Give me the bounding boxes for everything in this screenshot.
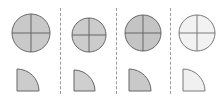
sector-body-1	[17, 69, 39, 91]
quarter-sector-4	[181, 67, 207, 93]
panel-4	[170, 0, 224, 100]
figure-canvas	[0, 0, 224, 100]
sector-body-3	[129, 69, 151, 91]
quarter-sector-1	[15, 67, 41, 93]
panel-3	[116, 0, 170, 100]
quarter-sector-2	[72, 68, 97, 93]
quarter-sector-3	[127, 67, 153, 93]
sector-body-2	[74, 70, 95, 91]
crosshair-circle-4	[177, 13, 217, 53]
panel-2	[60, 0, 116, 100]
crosshair-circle-3	[123, 13, 163, 53]
sector-body-4	[183, 69, 205, 91]
crosshair-circle-1	[10, 12, 52, 54]
crosshair-circle-2	[70, 16, 108, 54]
panel-1	[0, 0, 60, 100]
